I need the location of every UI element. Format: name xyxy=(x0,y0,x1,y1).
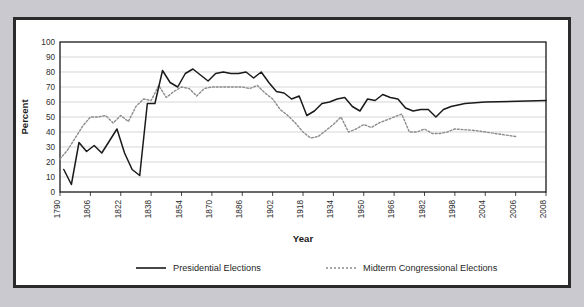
y-tick-label: 0 xyxy=(50,188,55,197)
x-tick-label: 1950 xyxy=(357,200,366,219)
x-tick-label: 1918 xyxy=(296,200,305,219)
figure-card: 0102030405060708090100 17901806182218381… xyxy=(13,17,571,288)
y-tick-label: 30 xyxy=(46,143,56,152)
y-tick-label: 100 xyxy=(41,38,55,47)
line-chart: 0102030405060708090100 17901806182218381… xyxy=(16,20,568,285)
x-axis-title: Year xyxy=(293,233,314,244)
x-tick-label: 1838 xyxy=(144,200,153,219)
y-axis-tick-labels: 0102030405060708090100 xyxy=(41,38,55,197)
x-tick-label: 1870 xyxy=(205,200,214,219)
y-tick-label: 90 xyxy=(46,53,56,62)
page-background: 0102030405060708090100 17901806182218381… xyxy=(0,0,584,307)
y-tick-label: 80 xyxy=(46,68,56,77)
x-tick-label: 1886 xyxy=(235,200,244,219)
x-tick-label: 1966 xyxy=(387,200,396,219)
x-tick-label: 1822 xyxy=(114,200,123,219)
x-tick-label: 2006 xyxy=(509,200,518,219)
y-tick-label: 50 xyxy=(46,113,56,122)
x-tick-label: 2008 xyxy=(539,200,548,219)
series-line-presidential-elections xyxy=(64,69,546,185)
x-tick-label: 1934 xyxy=(326,200,335,219)
legend-label-midterm: Midterm Congressional Elections xyxy=(363,263,498,273)
x-tick-label: 1790 xyxy=(53,200,62,219)
chart-svg: 0102030405060708090100 17901806182218381… xyxy=(16,20,568,285)
x-tick-label: 1982 xyxy=(418,200,427,219)
x-tick-label: 2004 xyxy=(478,200,487,219)
x-tick-label: 1854 xyxy=(175,200,184,219)
y-tick-label: 40 xyxy=(46,128,56,137)
y-tick-label: 60 xyxy=(46,98,56,107)
gridlines-group xyxy=(60,57,546,177)
y-axis-title: Percent xyxy=(19,99,30,135)
x-tick-label: 1806 xyxy=(83,200,92,219)
y-tick-label: 20 xyxy=(46,158,56,167)
y-tick-label: 70 xyxy=(46,83,56,92)
x-tick-label: 1902 xyxy=(266,200,275,219)
chart-legend: Presidential ElectionsMidterm Congressio… xyxy=(136,263,498,273)
x-tick-label: 1998 xyxy=(448,200,457,219)
y-tick-label: 10 xyxy=(46,173,56,182)
legend-label-presidential: Presidential Elections xyxy=(173,263,261,273)
x-axis-tick-labels: 1790180618221838185418701886190219181934… xyxy=(53,200,548,219)
